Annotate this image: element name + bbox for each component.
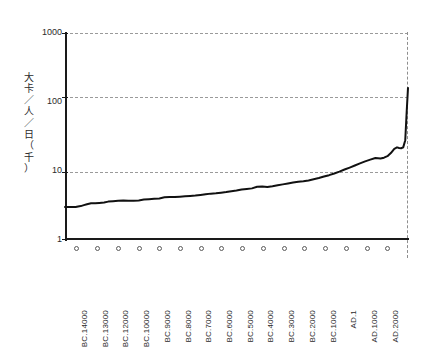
x-tickmark-AD.1000 <box>365 246 370 251</box>
x-tick-label-BC.4000: BC.4000 <box>266 310 275 343</box>
x-tick-label-BC.1000: BC.1000 <box>329 310 338 343</box>
data-line-energy-per-capita <box>65 33 408 240</box>
x-tickmark-BC.3000 <box>282 246 287 251</box>
x-tick-label-BC.3000: BC.3000 <box>287 310 296 343</box>
x-tickmark-BC.7000 <box>199 246 204 251</box>
x-tick-label-BC.2000: BC.2000 <box>308 310 317 343</box>
x-tickmark-BC.10000 <box>137 246 142 251</box>
x-axis-tick-labels: BC.14000BC.13000BC.12000BC.10000BC.9000B… <box>0 252 426 316</box>
x-tickmark-AD.2000 <box>385 246 390 251</box>
x-tick-label-BC.10000: BC.10000 <box>142 310 151 347</box>
x-tickmark-BC.12000 <box>116 246 121 251</box>
y-tick-label-1000: 1000 <box>32 27 62 37</box>
x-tick-label-BC.9000: BC.9000 <box>163 310 172 343</box>
x-tickmark-BC.13000 <box>95 246 100 251</box>
x-tick-label-BC.14000: BC.14000 <box>80 310 89 347</box>
x-tick-label-BC.13000: BC.13000 <box>101 310 110 347</box>
x-tickmark-BC.1000 <box>323 246 328 251</box>
x-tickmark-BC.9000 <box>157 246 162 251</box>
x-tick-label-BC.8000: BC.8000 <box>184 310 193 343</box>
x-tick-label-BC.12000: BC.12000 <box>121 310 130 347</box>
x-tickmark-BC.14000 <box>74 246 79 251</box>
x-tick-label-AD.2000: AD.2000 <box>391 310 400 343</box>
x-tickmark-BC.6000 <box>219 246 224 251</box>
x-tick-label-BC.5000: BC.5000 <box>246 310 255 343</box>
y-tick-label-1: 1 <box>32 234 62 244</box>
y-tick-label-100: 100 <box>32 96 62 106</box>
plot-area <box>65 33 408 240</box>
x-tick-label-BC.6000: BC.6000 <box>225 310 234 343</box>
x-tickmark-BC.4000 <box>261 246 266 251</box>
x-tick-label-AD.1: AD.1 <box>349 310 358 329</box>
x-tickmark-AD.1 <box>344 246 349 251</box>
x-tickmark-BC.2000 <box>302 246 307 251</box>
x-tick-label-BC.7000: BC.7000 <box>204 310 213 343</box>
x-tickmark-BC.5000 <box>240 246 245 251</box>
x-tick-label-AD.1000: AD.1000 <box>370 310 379 343</box>
x-tickmark-BC.8000 <box>178 246 183 251</box>
y-tick-label-10: 10 <box>32 165 62 175</box>
